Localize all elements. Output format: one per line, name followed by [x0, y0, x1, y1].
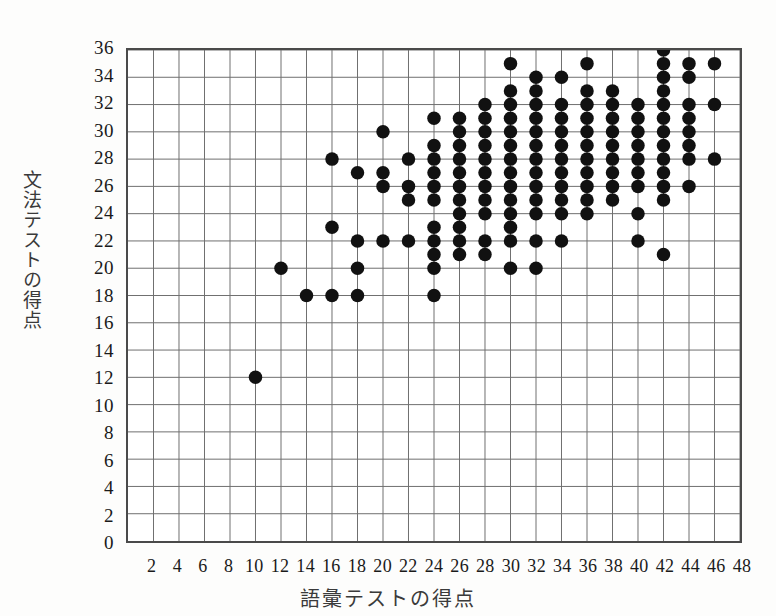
data-point	[631, 111, 645, 124]
data-point	[555, 166, 569, 179]
data-point	[682, 57, 696, 70]
data-point	[529, 207, 543, 220]
data-point	[555, 111, 569, 124]
data-point	[606, 166, 620, 179]
data-point	[708, 152, 722, 165]
y-tick-label: 30	[74, 121, 114, 140]
data-point	[657, 193, 671, 206]
data-point	[427, 180, 441, 193]
data-point	[427, 139, 441, 152]
data-point	[657, 71, 671, 84]
data-point	[529, 152, 543, 165]
data-point	[631, 139, 645, 152]
data-point	[529, 193, 543, 206]
y-tick-label: 0	[74, 533, 114, 552]
data-point	[657, 125, 671, 138]
data-point	[682, 139, 696, 152]
data-point	[657, 98, 671, 111]
data-point	[325, 221, 339, 234]
data-point	[682, 98, 696, 111]
data-point	[325, 289, 339, 302]
data-point	[427, 111, 441, 124]
data-point	[555, 98, 569, 111]
data-point	[631, 98, 645, 111]
y-tick-label: 26	[74, 176, 114, 195]
y-tick-label: 10	[74, 396, 114, 415]
data-point	[504, 180, 518, 193]
data-point	[606, 193, 620, 206]
data-point	[504, 98, 518, 111]
data-point	[427, 234, 441, 247]
data-point	[478, 98, 492, 111]
y-tick-label: 34	[74, 66, 114, 85]
data-point	[504, 125, 518, 138]
data-point	[606, 152, 620, 165]
data-point	[529, 234, 543, 247]
data-point	[580, 111, 594, 124]
y-tick-label: 22	[74, 231, 114, 250]
y-axis-title: 文法テストの得点	[14, 170, 44, 330]
data-point	[478, 248, 492, 261]
data-point	[682, 180, 696, 193]
data-point	[631, 207, 645, 220]
plot-area	[126, 48, 742, 543]
data-point	[427, 166, 441, 179]
y-tick-label: 16	[74, 313, 114, 332]
data-point	[453, 139, 467, 152]
data-point	[453, 193, 467, 206]
data-point	[427, 152, 441, 165]
data-point	[555, 234, 569, 247]
data-point	[478, 207, 492, 220]
data-point	[478, 166, 492, 179]
data-point	[555, 139, 569, 152]
data-point	[351, 261, 365, 274]
data-point	[453, 180, 467, 193]
data-point	[580, 193, 594, 206]
data-point	[351, 234, 365, 247]
data-point	[606, 125, 620, 138]
data-point	[402, 193, 416, 206]
y-tick-label: 28	[74, 148, 114, 167]
data-point	[249, 371, 263, 384]
data-point	[657, 248, 671, 261]
data-point	[657, 152, 671, 165]
data-point	[427, 248, 441, 261]
y-tick-label: 12	[74, 368, 114, 387]
data-point	[657, 180, 671, 193]
data-point	[504, 166, 518, 179]
data-point	[682, 125, 696, 138]
data-point	[453, 248, 467, 261]
data-point	[657, 50, 671, 57]
data-point	[555, 152, 569, 165]
data-point	[478, 234, 492, 247]
y-tick-label: 32	[74, 93, 114, 112]
y-tick-label: 8	[74, 423, 114, 442]
data-point	[529, 71, 543, 84]
y-tick-label: 4	[74, 478, 114, 497]
x-axis-tick-labels: 2468101214161820222426283032343638404244…	[126, 556, 742, 582]
data-point	[631, 152, 645, 165]
data-point	[657, 57, 671, 70]
data-point	[504, 111, 518, 124]
data-point	[427, 289, 441, 302]
data-point	[376, 180, 390, 193]
data-point	[708, 57, 722, 70]
data-point	[376, 234, 390, 247]
y-tick-label: 24	[74, 203, 114, 222]
data-point	[580, 125, 594, 138]
data-point	[402, 234, 416, 247]
data-point	[453, 207, 467, 220]
y-tick-label: 20	[74, 258, 114, 277]
data-point	[631, 166, 645, 179]
data-point	[504, 207, 518, 220]
data-point	[376, 125, 390, 138]
data-point	[580, 180, 594, 193]
y-tick-label: 36	[74, 38, 114, 57]
data-point	[504, 84, 518, 97]
x-tick-label: 48	[725, 556, 759, 576]
data-point	[529, 98, 543, 111]
scatter-chart: 文法テストの得点 0246810121416182022242628303234…	[0, 0, 776, 616]
y-tick-label: 14	[74, 341, 114, 360]
data-point	[606, 84, 620, 97]
data-point	[682, 71, 696, 84]
